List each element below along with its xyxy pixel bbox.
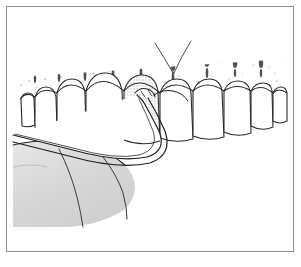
tooth-9: [273, 87, 287, 123]
tooth-0: [21, 93, 35, 127]
illustration-page: [0, 0, 301, 267]
dental-illustration-svg: [7, 7, 293, 251]
dental-illustration: [7, 7, 293, 251]
